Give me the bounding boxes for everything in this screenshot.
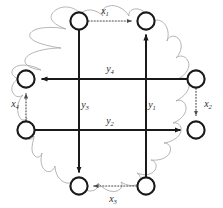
node-top-left[interactable]	[70, 12, 87, 29]
label-y1: y1	[147, 99, 156, 111]
node-bottom-right[interactable]	[137, 177, 154, 194]
label-x3: x3	[108, 193, 117, 205]
label-y2: y2	[105, 115, 114, 127]
diagram-svg: x1 x2 x3 x4 y1 y2 y3 y4	[0, 0, 223, 208]
background-squiggle-curve	[12, 6, 189, 192]
node-left-upper[interactable]	[17, 70, 34, 87]
node-right-lower[interactable]	[187, 121, 204, 138]
nodes-group	[17, 12, 204, 194]
edge-labels-group: x1 x2 x3 x4 y1 y2 y3 y4	[10, 5, 212, 205]
node-left-lower[interactable]	[17, 121, 34, 138]
dotted-edges-group	[26, 21, 196, 186]
squiggle-path	[12, 6, 189, 192]
label-x2: x2	[203, 98, 212, 110]
node-top-right[interactable]	[137, 12, 154, 29]
label-x1: x1	[100, 5, 109, 17]
solid-edges-group	[35, 30, 188, 178]
node-right-upper[interactable]	[187, 70, 204, 87]
label-x4: x4	[10, 98, 19, 110]
diagram-canvas: x1 x2 x3 x4 y1 y2 y3 y4	[0, 0, 223, 208]
label-y3: y3	[80, 99, 89, 111]
node-bottom-left[interactable]	[70, 177, 87, 194]
label-y4: y4	[105, 63, 114, 75]
